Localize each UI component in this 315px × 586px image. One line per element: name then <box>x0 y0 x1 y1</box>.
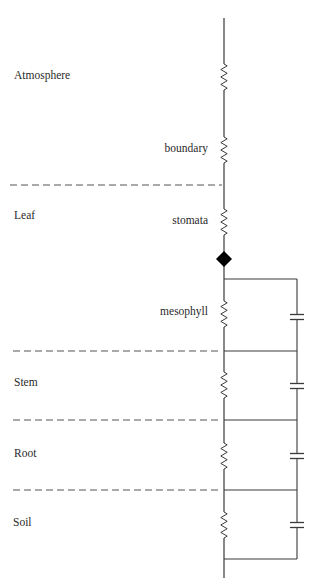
leaf-node-diamond-icon <box>216 251 232 267</box>
resistor-atmosphere-icon <box>221 64 227 90</box>
zone-label-atmosphere: Atmosphere <box>14 70 70 82</box>
resistor-mesophyll-icon <box>221 301 227 327</box>
resistor-stem-icon <box>221 372 227 398</box>
zone-label-leaf: Leaf <box>14 210 35 222</box>
zone-label-soil: Soil <box>13 517 32 529</box>
soil-plant-atmosphere-circuit <box>0 0 315 586</box>
resistor-soil-icon <box>221 512 227 538</box>
resistance-label-stomata: stomata <box>172 215 208 227</box>
zone-label-stem: Stem <box>14 377 38 389</box>
resistor-stomata-icon <box>221 209 227 235</box>
resistance-label-boundary: boundary <box>165 143 208 155</box>
resistance-label-mesophyll: mesophyll <box>160 306 208 318</box>
resistor-boundary-icon <box>221 137 227 163</box>
zone-label-root: Root <box>14 448 36 460</box>
resistor-root-icon <box>221 443 227 469</box>
